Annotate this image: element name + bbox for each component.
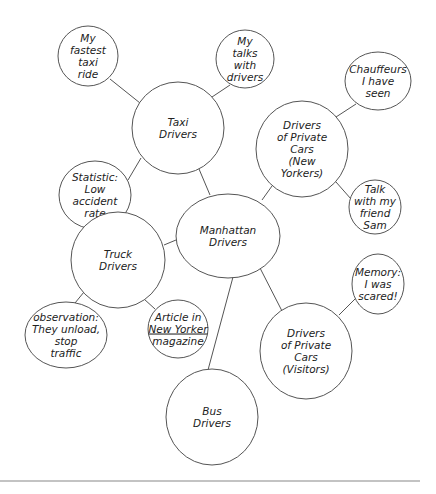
node-label-line: My: [237, 35, 253, 47]
node-label-line: taxi: [78, 56, 98, 68]
node-label-line: Memory:: [355, 266, 401, 278]
node-article: Article inNew Yorkermagazine: [148, 300, 208, 358]
node-chauffeurs: ChauffeursI haveseen: [345, 52, 411, 110]
node-label-line: Yorkers): [281, 167, 323, 179]
edge-manhattan-taxi: [199, 169, 210, 195]
node-label-line: Drivers: [193, 417, 231, 429]
node-label-line: magazine: [152, 335, 203, 347]
node-truck: TruckDrivers: [71, 212, 165, 308]
node-label-line: Drivers: [159, 128, 197, 140]
edge-private_ny-sam: [336, 182, 351, 199]
node-label-line: scared!: [358, 290, 397, 302]
node-manhattan: ManhattanDrivers: [176, 194, 280, 278]
node-label-line: accident: [73, 195, 119, 207]
cluster-diagram: ManhattanDriversTaxiDriversMyfastesttaxi…: [0, 0, 436, 494]
node-label-line: Talk: [365, 183, 387, 195]
node-sam: Talkwith myfriendSam: [349, 180, 401, 234]
node-bus: BusDrivers: [166, 369, 258, 465]
node-label-line: Bus: [202, 405, 222, 417]
edge-manhattan-private_visitors: [260, 268, 282, 311]
node-label-line: fastest: [70, 44, 107, 56]
node-taxi: TaxiDrivers: [132, 82, 224, 174]
node-label-line: They unload,: [32, 323, 100, 335]
node-label-line: with: [234, 59, 256, 71]
node-label-line: talks: [232, 47, 258, 59]
node-label-line: Statistic:: [72, 171, 118, 183]
edge-taxi-fastest: [110, 79, 140, 103]
node-label-line: I have: [362, 75, 394, 87]
node-label-line: Chauffeurs: [349, 63, 407, 75]
node-label-line: ride: [78, 68, 98, 80]
node-observation: observation:They unload,stoptraffic: [25, 302, 107, 368]
node-label-line: Taxi: [168, 116, 189, 128]
node-label-line: Low: [85, 183, 106, 195]
node-label-line: Drivers: [283, 119, 321, 131]
node-label-line: Manhattan: [200, 224, 257, 236]
node-label-line: Drivers: [99, 260, 137, 272]
node-label-line: I was: [365, 278, 392, 290]
node-label-line: of Private: [277, 131, 327, 143]
edge-private_visitors-memory: [339, 298, 356, 315]
node-label-line: (Visitors): [282, 363, 329, 375]
node-label-line: Sam: [363, 219, 386, 231]
edge-truck-article: [144, 299, 155, 309]
edge-manhattan-bus: [208, 277, 233, 370]
node-talks: Mytalkswithdrivers: [216, 30, 274, 88]
node-label-line: stop: [55, 335, 78, 347]
node-label-line: Cars: [294, 351, 318, 363]
edge-taxi-statistic: [128, 158, 141, 180]
node-label-line: friend: [360, 207, 391, 219]
node-label-line: Truck: [104, 248, 133, 260]
node-private-ny: Driversof PrivateCars(NewYorkers): [256, 101, 348, 197]
edge-manhattan-truck: [164, 240, 176, 245]
node-label-line: traffic: [50, 347, 81, 359]
node-label-line: New Yorker: [148, 323, 208, 335]
edge-truck-observation: [75, 292, 84, 303]
node-label-line: of Private: [281, 339, 331, 351]
edge-private_ny-chauffeurs: [336, 104, 356, 117]
node-label-line: Drivers: [287, 327, 325, 339]
edge-manhattan-private_ny: [262, 186, 272, 200]
node-label-line: drivers: [227, 71, 264, 83]
node-label-line: seen: [365, 87, 390, 99]
node-label-line: Article in: [154, 311, 202, 323]
node-fastest: Myfastesttaxiride: [58, 26, 118, 86]
node-label-line: My: [80, 32, 96, 44]
edge-taxi-talks: [212, 85, 230, 97]
node-label-line: Cars: [290, 143, 314, 155]
node-label-line: with my: [354, 195, 397, 207]
nodes-layer: ManhattanDriversTaxiDriversMyfastesttaxi…: [25, 26, 411, 465]
node-memory: Memory:I wasscared!: [352, 254, 404, 314]
node-private-visitors: Driversof PrivateCars(Visitors): [260, 303, 352, 399]
node-label-line: (New: [289, 155, 316, 167]
node-label-line: Drivers: [209, 236, 247, 248]
node-label-line: observation:: [33, 311, 99, 323]
